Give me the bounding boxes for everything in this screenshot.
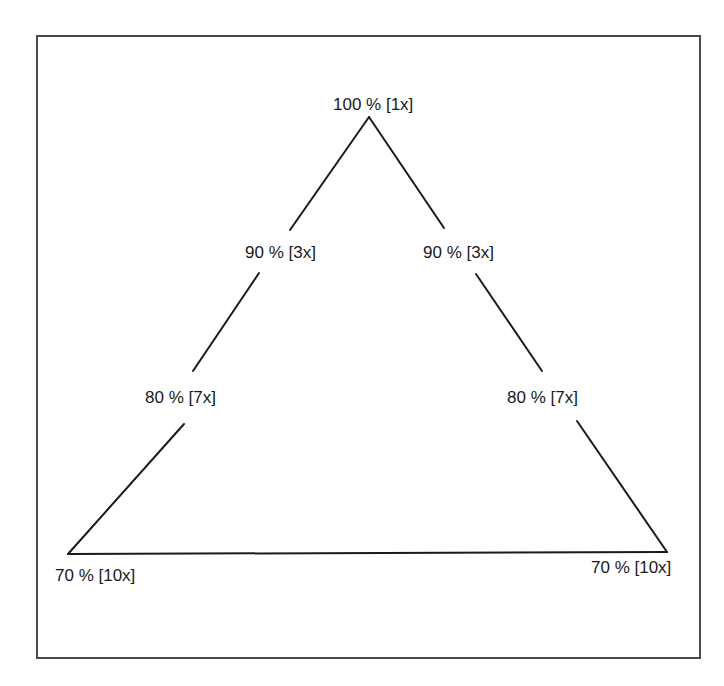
edge-left-lower (68, 424, 184, 554)
right-90-label: 90 % [3x] (423, 243, 494, 263)
right-80-label: 80 % [7x] (507, 388, 578, 408)
edge-right-middle (476, 274, 542, 371)
edge-left-middle (193, 273, 259, 371)
apex-label: 100 % [1x] (333, 95, 413, 115)
left-70-label: 70 % [10x] (55, 566, 135, 586)
triangle-edges (68, 117, 667, 554)
edge-right-lower (577, 421, 667, 552)
edge-base (68, 552, 667, 554)
right-70-label: 70 % [10x] (591, 558, 671, 578)
left-80-label: 80 % [7x] (145, 388, 216, 408)
edge-right-upper (369, 117, 444, 228)
left-90-label: 90 % [3x] (245, 243, 316, 263)
edge-left-upper (290, 117, 369, 230)
